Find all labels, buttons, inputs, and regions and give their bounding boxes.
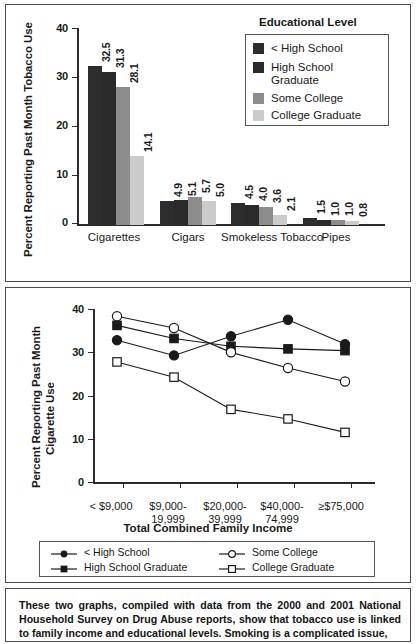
bar-0-0 xyxy=(88,66,102,225)
line-legend-item-college-graduate[interactable]: College Graduate xyxy=(218,561,334,573)
bar-value-label-1-2: 5.7 xyxy=(200,179,212,193)
line-chart-plot-area xyxy=(96,308,374,482)
bar-ytick-40: 40 xyxy=(42,23,68,34)
bar-1-3 xyxy=(202,201,216,226)
filled-square-marker-icon xyxy=(50,561,78,573)
legend-label-less-than-high-school: < High School xyxy=(271,42,343,55)
bar-0-2 xyxy=(116,87,130,225)
legend-label-college-graduate: College Graduate xyxy=(271,109,361,122)
legend-item-college-graduate[interactable]: College Graduate xyxy=(253,109,361,122)
bar-value-label-3-0: 1.5 xyxy=(315,200,327,214)
caption-panel: These two graphs, compiled with data fro… xyxy=(5,588,411,642)
line-chart-y-axis-label-line1: Percent Reporting Past Month xyxy=(30,326,42,488)
line-xtick-2 xyxy=(237,483,238,488)
open-square-marker-icon xyxy=(218,561,246,573)
line-legend-label-high-school-graduate: High School Graduate xyxy=(84,561,187,573)
data-point-0-1 xyxy=(169,351,178,360)
line-x-axis xyxy=(93,482,375,484)
line-legend-label-college-graduate: College Graduate xyxy=(252,561,334,573)
bar-value-label-1-0: 4.9 xyxy=(172,183,184,197)
line-y-axis xyxy=(93,309,95,483)
line-legend-label-less-than-high-school: < High School xyxy=(84,546,150,558)
bar-0-1 xyxy=(102,72,116,225)
data-point-3-2 xyxy=(227,405,235,413)
bar-chart-y-axis-label: Percent Reporting Past Month Tobacco Use xyxy=(22,22,34,257)
bar-2-1 xyxy=(245,205,259,225)
bar-value-label-0-1: 31.3 xyxy=(114,48,126,67)
data-point-2-2 xyxy=(226,348,235,357)
line-legend-item-less-than-high-school[interactable]: < High School xyxy=(50,546,150,558)
bar-value-label-1-1: 5.1 xyxy=(186,182,198,196)
line-legend-box: < High School High School Graduate Some … xyxy=(39,541,375,577)
data-point-2-3 xyxy=(283,363,292,372)
bar-value-label-1-3: 5.0 xyxy=(214,183,226,197)
legend-item-some-college[interactable]: Some College xyxy=(253,92,343,105)
figure-page: Percent Reporting Past Month Tobacco Use… xyxy=(0,0,416,644)
legend-swatch-icon-high-school-graduate xyxy=(253,62,264,73)
bar-group-label-smokeless: Smokeless Tobacco xyxy=(221,231,303,244)
bar-1-0 xyxy=(160,201,174,225)
line-xcat-4: ≥$75,000 xyxy=(302,500,380,513)
data-point-0-3 xyxy=(283,315,292,324)
line-legend-item-high-school-graduate[interactable]: High School Graduate xyxy=(50,561,187,573)
bar-value-label-0-0: 32.5 xyxy=(100,43,112,62)
bar-3-2 xyxy=(331,220,345,225)
data-point-3-1 xyxy=(170,373,178,381)
data-point-1-3 xyxy=(284,345,292,353)
legend-item-high-school-graduate[interactable]: High School Graduate xyxy=(253,61,333,86)
bar-legend-title: Educational Level xyxy=(259,16,357,28)
data-point-3-0 xyxy=(113,358,121,366)
legend-label-high-school-graduate: High School Graduate xyxy=(271,61,333,86)
bar-value-label-3-1: 1.0 xyxy=(329,202,341,216)
bar-value-label-2-2: 3.6 xyxy=(271,190,283,204)
line-ytick-10: 10 xyxy=(58,434,84,445)
line-ytick-30: 30 xyxy=(58,347,84,358)
bar-chart-panel: Percent Reporting Past Month Tobacco Use… xyxy=(5,4,411,282)
line-legend-item-some-college[interactable]: Some College xyxy=(218,546,318,558)
line-legend-label-some-college: Some College xyxy=(252,546,318,558)
line-chart-x-axis-title: Total Combined Family Income xyxy=(0,522,416,534)
bar-2-3 xyxy=(273,215,287,225)
legend-item-less-than-high-school[interactable]: < High School xyxy=(253,42,343,55)
bar-legend-box: < High School High School Graduate Some … xyxy=(245,34,389,126)
line-chart-y-axis-label-line2: Cigarette Use xyxy=(44,382,56,455)
data-point-0-2 xyxy=(226,332,235,341)
bar-ytick-30: 30 xyxy=(42,71,68,82)
bar-group-label-cigars: Cigars xyxy=(153,231,223,244)
bar-3-1 xyxy=(317,220,331,225)
legend-swatch-icon-less-than-high-school xyxy=(253,43,264,54)
line-xtick-4 xyxy=(351,483,352,488)
bar-value-label-2-1: 4.0 xyxy=(257,188,269,202)
data-point-1-4 xyxy=(341,346,349,354)
bar-ytick-10: 10 xyxy=(42,169,68,180)
bar-2-2 xyxy=(259,207,273,225)
line-xtick-0 xyxy=(123,483,124,488)
bar-value-label-2-0: 4.5 xyxy=(243,185,255,199)
bar-1-1 xyxy=(174,200,188,225)
bar-group-label-pipes: Pipes xyxy=(301,231,371,244)
bar-0-3 xyxy=(130,156,144,225)
bar-ytick-0: 0 xyxy=(42,217,68,228)
data-point-2-4 xyxy=(340,377,349,386)
data-point-1-0 xyxy=(113,321,121,329)
data-point-3-4 xyxy=(341,428,349,436)
data-point-2-0 xyxy=(112,312,121,321)
line-chart-svg xyxy=(96,308,374,482)
bar-group-label-cigarettes: Cigarettes xyxy=(74,231,154,244)
bar-ytick-20: 20 xyxy=(42,120,68,131)
line-xtick-3 xyxy=(294,483,295,488)
legend-label-some-college: Some College xyxy=(271,92,343,105)
open-circle-marker-icon xyxy=(218,546,246,558)
bar-3-0 xyxy=(303,218,317,225)
data-point-2-1 xyxy=(169,323,178,332)
data-point-1-1 xyxy=(170,334,178,342)
bar-2-0 xyxy=(231,203,245,225)
legend-swatch-icon-some-college xyxy=(253,93,264,104)
bar-value-label-3-2: 1.0 xyxy=(343,202,355,216)
data-point-3-3 xyxy=(284,415,292,423)
line-ytick-0: 0 xyxy=(58,477,84,488)
bar-value-label-0-2: 28.1 xyxy=(128,64,140,83)
bar-value-label-0-3: 14.1 xyxy=(142,133,154,152)
bar-3-3 xyxy=(345,221,359,225)
line-series-3 xyxy=(117,362,345,432)
